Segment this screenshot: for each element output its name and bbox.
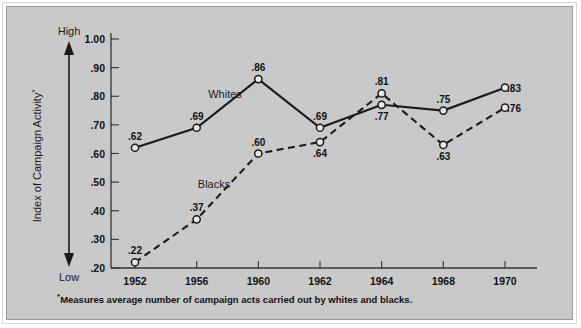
y-tick-label: .60: [90, 148, 105, 160]
x-tick-label: 1952: [123, 275, 147, 287]
data-point-label: .22: [128, 245, 142, 256]
x-tick-label: 1962: [308, 275, 332, 287]
y-tick-label: .30: [90, 233, 105, 245]
data-point-label: .64: [313, 148, 327, 159]
y-tick-label: .50: [90, 176, 105, 188]
y-axis-ticks: 1.00.90.80.70.60.50.40.30.20: [85, 33, 119, 274]
data-point-marker: [255, 75, 262, 82]
data-point-label: .63: [436, 151, 450, 162]
data-point-label: .37: [190, 202, 204, 213]
data-point-marker: [131, 144, 138, 151]
high-label: High: [58, 25, 81, 37]
data-point-marker: [316, 124, 323, 131]
data-point-marker: [193, 124, 200, 131]
x-tick-label: 1964: [370, 275, 394, 287]
y-tick-label: 1.00: [85, 33, 106, 45]
data-point-marker: [255, 150, 262, 157]
y-tick-label: .20: [90, 262, 105, 274]
y-tick-label: .70: [90, 119, 105, 131]
data-point-marker: [378, 90, 385, 97]
x-axis-ticks: 1952195619601962196419681970: [123, 261, 517, 287]
data-point-label: .83: [507, 83, 521, 94]
x-tick-label: 1960: [247, 275, 271, 287]
series-annotation-blacks: Blacks: [198, 178, 231, 190]
high-low-arrow: High Low: [58, 25, 81, 283]
y-tick-label: .90: [90, 62, 105, 74]
y-tick-label: .80: [90, 90, 105, 102]
data-point-marker: [378, 101, 385, 108]
low-label: Low: [59, 271, 79, 283]
data-point-label: .62: [128, 131, 142, 142]
data-point-marker: [193, 216, 200, 223]
footnote: *Measures average number of campaign act…: [57, 292, 412, 305]
series-annotation-whites: Whites: [208, 88, 242, 100]
data-point-label: .69: [190, 111, 204, 122]
y-tick-label: .40: [90, 205, 105, 217]
x-tick-label: 1956: [185, 275, 209, 287]
data-point-label: .75: [436, 94, 450, 105]
x-tick-label: 1968: [432, 275, 456, 287]
data-point-marker: [316, 138, 323, 145]
data-point-label: .69: [313, 111, 327, 122]
line-chart: High Low 1.00.90.80.70.60.50.40.30.20 19…: [7, 7, 574, 321]
footnote-text: Measures average number of campaign acts…: [60, 294, 412, 305]
data-point-label: .86: [251, 62, 265, 73]
figure-panel: Index of Campaign Activity* High Low 1.0…: [6, 6, 573, 320]
data-point-marker: [440, 141, 447, 148]
data-point-marker: [440, 107, 447, 114]
x-tick-label: 1970: [493, 275, 517, 287]
data-point-label: .81: [375, 76, 389, 87]
data-point-label: .77: [375, 111, 389, 122]
data-point-label: .76: [507, 103, 521, 114]
data-point-marker: [131, 259, 138, 266]
data-point-label: .60: [251, 137, 265, 148]
